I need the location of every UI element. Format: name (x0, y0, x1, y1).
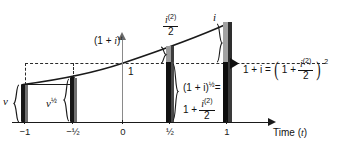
x-axis (12, 122, 270, 123)
label-v: v (3, 96, 8, 107)
center-eq-fraction: i(2) 2 (199, 97, 214, 121)
tick-label-one: 1 (210, 126, 244, 137)
label-i: i (213, 12, 216, 23)
tick-label-minus-one: −1 (8, 126, 42, 137)
y-axis (122, 40, 123, 123)
right-eq-inner-lead: 1 + (282, 64, 296, 75)
right-eq-open-paren: ( (274, 62, 278, 76)
accumulation-function-figure: −1 −½ 0 ½ 1 Time (t) (1 + i)t 1 v v½ i(2… (0, 0, 338, 149)
dashed-drop-minus-one (25, 63, 26, 85)
bar-discount-v-half (70, 77, 77, 122)
brace-v-half-icon (60, 78, 70, 122)
right-eq-fraction: i(2) 2 (298, 57, 313, 81)
fraction-i2-half-num-superscript: (2) (168, 13, 177, 20)
brace-v-icon (10, 84, 20, 123)
brace-base-half-icon (172, 63, 181, 121)
tick-minus-one (24, 120, 25, 124)
fraction-i2-half-numerator: i(2) (163, 13, 178, 27)
x-axis-title-paren: ) (304, 127, 307, 138)
center-equation: (1 + i)½= 1 + i(2) 2 (183, 79, 221, 122)
bar-discount-v (21, 84, 28, 122)
label-v-half-exponent: ½ (51, 97, 57, 104)
y-axis-title-exponent: t (120, 34, 122, 42)
center-eq-one-plus: 1 + (183, 104, 197, 115)
x-axis-arrow-icon (268, 118, 276, 126)
center-eq-fraction-numerator: i(2) (199, 97, 214, 111)
center-eq-base: (1 + i) (183, 82, 209, 93)
fraction-i2-half: i(2) 2 (163, 13, 178, 37)
right-eq-outer-exponent: 2 (324, 56, 328, 67)
tick-label-zero: 0 (106, 126, 140, 137)
right-eq-frac-num-superscript: (2) (303, 57, 312, 64)
label-i2-over-2: i(2) 2 (163, 13, 178, 37)
label-v-half: v½ (46, 95, 57, 109)
brace-i-icon (216, 23, 225, 64)
center-equation-line2: 1 + i(2) 2 (183, 97, 221, 121)
brace-i2-half-icon (160, 46, 169, 64)
tick-label-half: ½ (153, 126, 187, 137)
bar-base-one-dark (223, 62, 232, 122)
tick-zero (122, 120, 123, 124)
center-eq-fraction-denominator: 2 (199, 111, 214, 122)
y-axis-title-base: (1 + (94, 35, 114, 46)
right-eq-close-paren: ) (317, 62, 321, 76)
value-one-label: 1 (128, 66, 134, 77)
center-eq-equals: = (215, 82, 221, 93)
center-eq-frac-num-superscript: (2) (204, 97, 213, 104)
right-eq-fraction-numerator: i(2) (298, 57, 313, 71)
fraction-i2-half-denominator: 2 (163, 27, 178, 38)
right-equation: 1 + i = ( 1 + i(2) 2 ) 2 (243, 57, 328, 81)
pointer-right-equation-icon (230, 58, 240, 69)
x-axis-title: Time (t) (273, 127, 307, 138)
tick-one (226, 120, 227, 124)
right-eq-fraction-denominator: 2 (298, 71, 313, 82)
right-eq-lhs: 1 + i = (243, 64, 271, 75)
y-axis-title: (1 + i)t (94, 33, 122, 46)
tick-minus-half (72, 120, 73, 124)
center-equation-line1: (1 + i)½= (183, 79, 221, 93)
x-axis-title-text: Time ( (273, 127, 301, 138)
tick-half (169, 120, 170, 124)
tick-label-minus-half: −½ (56, 126, 90, 137)
dashed-drop-minus-half (73, 63, 74, 78)
